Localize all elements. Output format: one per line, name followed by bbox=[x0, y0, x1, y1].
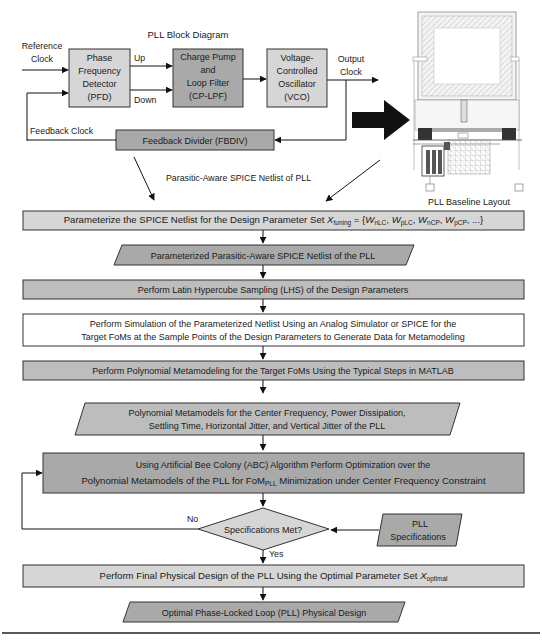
pll-block-diagram: PLL Block Diagram Reference Clock Phase … bbox=[22, 29, 410, 201]
step5-line2-a: Polynomial Metamodels of the PLL for FoM bbox=[81, 475, 265, 486]
fbdiv-label: Feedback Divider (FBDIV) bbox=[142, 136, 247, 146]
big-arrow-icon bbox=[352, 100, 410, 140]
x-optimal-subscript: optimal bbox=[427, 575, 448, 582]
step5-line2-b: Minimization under Center Frequency Cons… bbox=[277, 475, 486, 486]
step5-label-2: Polynomial Metamodels of the PLL for FoM… bbox=[43, 472, 524, 490]
specs-label-2: Specifications bbox=[390, 532, 446, 542]
param-symbol: W bbox=[445, 214, 454, 225]
specs-label-1: PLL bbox=[412, 519, 428, 529]
output-clock-label-1: Output bbox=[338, 54, 365, 64]
step6-text: Perform Final Physical Design of the PLL… bbox=[99, 570, 420, 581]
equals-brace: = { bbox=[351, 214, 365, 225]
pfd-label-2: Frequency bbox=[78, 66, 121, 76]
pfd-label-4: (PFD) bbox=[88, 92, 112, 102]
step4-label: Perform Polynomial Metamodeling for the … bbox=[92, 366, 454, 376]
yes-label: Yes bbox=[269, 549, 284, 559]
step5-label-1: Using Artificial Bee Colony (ABC) Algori… bbox=[136, 460, 431, 470]
step3-label-1: Perform Simulation of the Parameterized … bbox=[90, 319, 457, 329]
cp-lpf-label-2: and bbox=[200, 65, 215, 75]
cp-lpf-label-4: (CP-LPF) bbox=[189, 91, 227, 101]
vco-label-4: (VCO) bbox=[284, 92, 310, 102]
final-label: Optimal Phase-Locked Loop (PLL) Physical… bbox=[162, 608, 367, 618]
pfd-label-1: Phase bbox=[87, 53, 113, 63]
layout-caption: PLL Baseline Layout bbox=[428, 197, 511, 207]
cp-lpf-label-1: Charge Pump bbox=[180, 52, 236, 62]
x-tuning-subscript: tuning bbox=[333, 219, 351, 226]
step1-text: Parameterize the SPICE Netlist for the D… bbox=[64, 214, 327, 225]
param-subscript: pLC bbox=[401, 219, 413, 226]
vco-label-3: Oscillator bbox=[278, 79, 316, 89]
pfd-label-3: Detector bbox=[82, 79, 116, 89]
vco-label-2: Controlled bbox=[276, 66, 317, 76]
step1-label: Parameterize the SPICE Netlist for the D… bbox=[23, 211, 524, 230]
step6-label: Perform Final Physical Design of the PLL… bbox=[23, 565, 524, 587]
data2-label-2: Settling Time, Horizontal Jitter, and Ve… bbox=[149, 421, 386, 431]
block-diagram-title: PLL Block Diagram bbox=[148, 29, 229, 40]
netlist-label: Parasitic-Aware SPICE Netlist of PLL bbox=[166, 173, 311, 183]
param-symbol: W bbox=[392, 214, 401, 225]
reference-clock-label-2: Clock bbox=[31, 54, 54, 64]
data1-label: Parameterized Parasitic-Aware SPICE Netl… bbox=[151, 251, 375, 261]
param-subscript: pCP bbox=[454, 219, 467, 226]
up-label: Up bbox=[134, 53, 145, 63]
step2-label: Perform Latin Hypercube Sampling (LHS) o… bbox=[138, 285, 409, 295]
param-subscript: nCP bbox=[427, 219, 440, 226]
no-label: No bbox=[187, 514, 198, 524]
diagram-canvas: PLL Block Diagram Reference Clock Phase … bbox=[0, 0, 542, 642]
data2-label-1: Polynomial Metamodels for the Center Fre… bbox=[129, 408, 406, 418]
decision-label: Specifications Met? bbox=[224, 525, 302, 535]
param-tail: , ...} bbox=[467, 214, 484, 225]
vco-label-1: Voltage- bbox=[280, 53, 313, 63]
down-label: Down bbox=[134, 95, 157, 105]
param-subscript: nLC bbox=[374, 219, 386, 226]
pll-baseline-layout-image: PLL Baseline Layout bbox=[413, 12, 523, 207]
feedback-clock-label: Feedback Clock bbox=[30, 126, 94, 136]
reference-clock-label-1: Reference bbox=[22, 41, 63, 51]
cp-lpf-label-3: Loop Filter bbox=[187, 78, 230, 88]
output-clock-label-2: Clock bbox=[340, 67, 363, 77]
param-symbol: W bbox=[418, 214, 427, 225]
fom-subscript: PLL bbox=[265, 480, 277, 487]
step3-label-2: Target FoMs at the Sample Points of the … bbox=[81, 332, 465, 342]
